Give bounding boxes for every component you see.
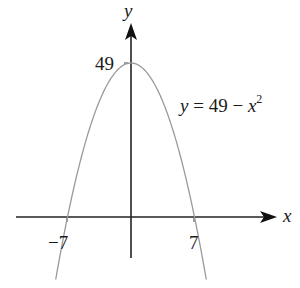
equation-exponent: 2 [256,92,262,106]
equation-mid: = 49 − [188,95,247,116]
equation-label: y = 49 − x2 [180,96,262,115]
y-axis-label: y [124,1,132,20]
plot-area [0,0,300,288]
y-tick-label-49: 49 [95,54,114,73]
x-tick-label-7: 7 [189,233,199,252]
x-axis-label: x [283,206,291,225]
x-tick-label-neg7: −7 [48,233,68,252]
